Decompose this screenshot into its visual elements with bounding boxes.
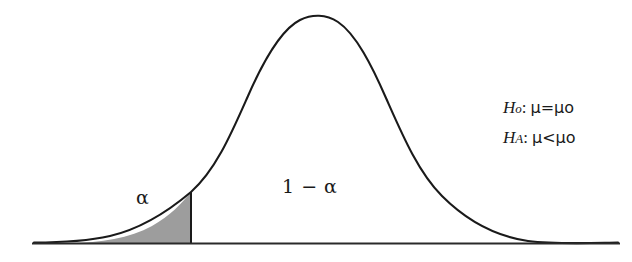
null-hypothesis-symbol: H [503,98,515,117]
alpha-label: α [136,188,149,207]
alternative-hypothesis-line: HA:μ<μo [503,129,576,146]
null-hypothesis-expression: μ=μo [531,98,575,117]
alternative-hypothesis-expression: μ<μo [532,128,576,147]
alternative-hypothesis-symbol: H [503,128,515,147]
null-hypothesis-colon: : [522,98,527,117]
hypotheses-block: Ho:μ=μo HA:μ<μo [503,99,576,146]
one-minus-alpha-label: 1 − α [282,177,337,196]
normal-curve-figure: α 1 − α Ho:μ=μo HA:μ<μo [0,0,632,262]
null-hypothesis-line: Ho:μ=μo [503,99,576,116]
alternative-hypothesis-colon: : [523,128,528,147]
alpha-shaded-region [70,192,191,243]
